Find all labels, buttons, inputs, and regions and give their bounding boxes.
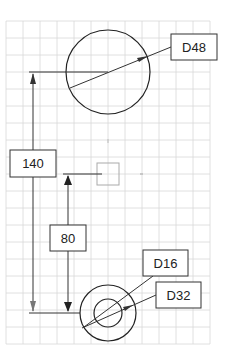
cad-drawing-canvas[interactable]: 140 80 D48 D16 D32	[0, 0, 230, 355]
d32-label[interactable]: D32	[156, 282, 201, 308]
d16-label[interactable]: D16	[143, 250, 188, 276]
dim80-label[interactable]: 80	[50, 225, 86, 251]
d48-label[interactable]: D48	[171, 34, 217, 60]
d48-leader	[70, 47, 171, 88]
dim80-arrow-bottom	[64, 302, 72, 312]
d48-text: D48	[182, 40, 206, 55]
d16-text: D16	[154, 256, 178, 271]
dim140-arrow-top	[30, 73, 36, 84]
dim140-label[interactable]: 140	[10, 150, 56, 177]
d32-leader	[82, 295, 156, 328]
dim140-text: 140	[22, 156, 44, 171]
d48-leader-arrow	[137, 56, 148, 62]
d32-text: D32	[167, 288, 191, 303]
dim80-text: 80	[61, 231, 75, 246]
dim80-arrow-top	[64, 175, 72, 185]
